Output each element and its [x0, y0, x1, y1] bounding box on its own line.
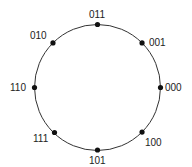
- node-dot-011: [95, 22, 100, 27]
- node-dot-001: [139, 40, 144, 45]
- node-label-101: 101: [89, 155, 106, 166]
- node-dot-010: [50, 40, 55, 45]
- node-label-110: 110: [10, 82, 26, 93]
- node-dot-100: [139, 129, 144, 134]
- node-label-111: 111: [33, 133, 49, 144]
- gray-code-circle-diagram: 000 001 011 010 110 111 101 100: [0, 0, 192, 167]
- node-dot-101: [95, 147, 100, 152]
- node-label-100: 100: [145, 137, 162, 148]
- node-label-011: 011: [89, 9, 105, 20]
- node-label-000: 000: [165, 82, 182, 93]
- node-dot-111: [52, 130, 57, 135]
- node-dot-000: [158, 85, 163, 90]
- node-label-010: 010: [30, 30, 47, 41]
- node-label-001: 001: [149, 37, 166, 48]
- node-dot-110: [32, 85, 37, 90]
